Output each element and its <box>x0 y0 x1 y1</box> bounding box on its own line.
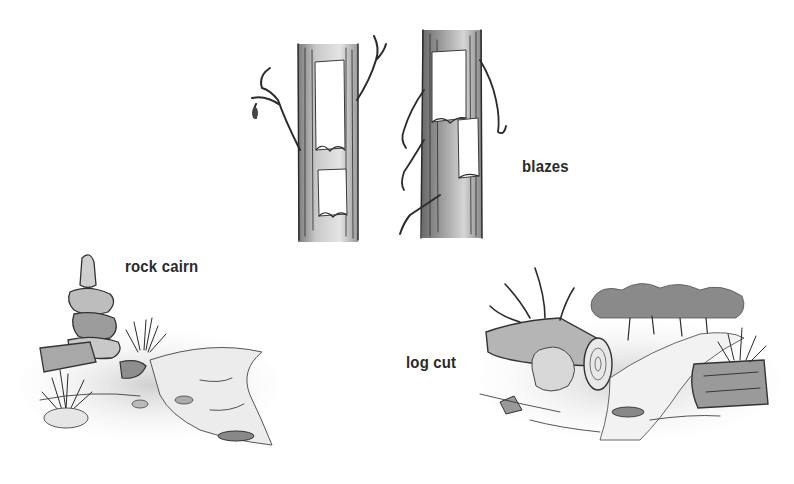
trail-markers-illustration: blazes rock cairn log cut <box>0 0 794 484</box>
label-rock-cairn: rock cairn <box>125 257 198 277</box>
rock-cairn-scene <box>20 255 280 445</box>
blaze-tree-right <box>400 30 506 238</box>
log-cut-scene <box>480 268 780 440</box>
blaze-tree-left <box>252 36 386 242</box>
illustration-drawing <box>0 0 794 484</box>
label-blazes: blazes <box>522 157 569 177</box>
label-log-cut: log cut <box>406 353 456 373</box>
